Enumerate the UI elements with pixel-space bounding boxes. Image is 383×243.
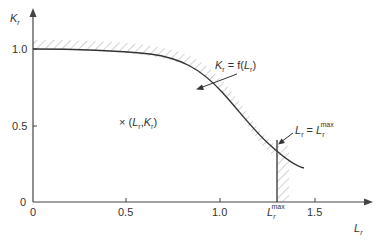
axis-ticks [33,49,315,202]
x-axis-label: Lr [354,222,363,236]
x-tick-1: 1.0 [212,206,227,218]
y-axis [30,8,37,202]
assessment-point-label: × (Lr,Kr) [119,116,157,130]
y-tick-05: 0.5 [12,120,27,132]
x-tick-15: 1.5 [307,206,322,218]
x-axis [33,199,373,206]
hatched-region [33,40,289,202]
cutoff-label-arrow [278,133,293,145]
y-tick-0: 0 [20,196,26,208]
x-tick-0: 0 [30,206,36,218]
x-tick-05: 0.5 [118,206,133,218]
kr-curve [33,49,304,168]
failure-assessment-diagram: Kr 1.0 0.5 0 0 0.5 1.0 1.5 Lrmax Lr Kr =… [0,0,383,243]
x-tick-lrmax: Lrmax [267,203,285,220]
curve-label: Kr = f(Lr) [215,59,256,73]
cutoff-label: Lr = Lrmax [295,121,334,138]
y-axis-label: Kr [10,12,20,26]
y-tick-1: 1.0 [12,43,27,55]
